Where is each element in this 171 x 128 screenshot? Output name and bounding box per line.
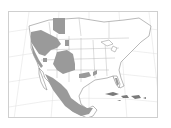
range-map bbox=[9, 12, 158, 118]
map-frame bbox=[8, 11, 158, 118]
land-outline bbox=[29, 18, 151, 118]
